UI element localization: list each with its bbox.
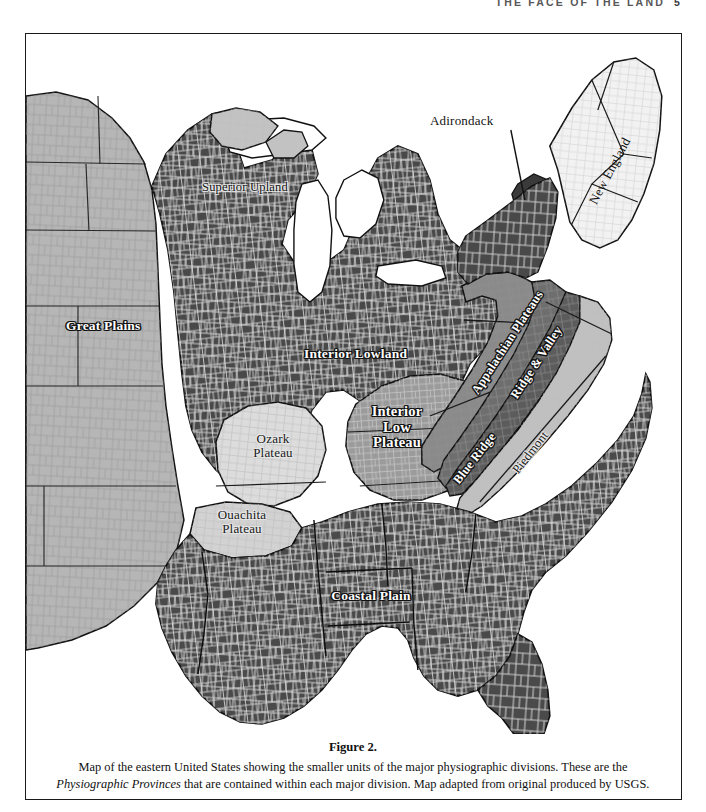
page-folio: 5 bbox=[674, 0, 682, 8]
caption-line-1: Map of the eastern United States showing… bbox=[78, 760, 627, 774]
running-head-title: THE FACE OF THE LAND bbox=[496, 0, 665, 8]
figure-frame: Great Plains Superior Upland Interior Lo… bbox=[25, 33, 682, 800]
figure-caption-title: Figure 2. bbox=[52, 739, 654, 757]
map-graphic bbox=[26, 34, 680, 734]
figure-caption-body: Map of the eastern United States showing… bbox=[52, 759, 654, 794]
figure-caption: Figure 2. Map of the eastern United Stat… bbox=[26, 734, 680, 794]
caption-line-2: that are contained within each major div… bbox=[181, 777, 650, 791]
running-head: THE FACE OF THE LAND5 bbox=[0, 0, 706, 12]
caption-italic-term: Physiographic Provinces bbox=[56, 777, 180, 791]
physiographic-map[interactable]: Great Plains Superior Upland Interior Lo… bbox=[26, 34, 680, 734]
